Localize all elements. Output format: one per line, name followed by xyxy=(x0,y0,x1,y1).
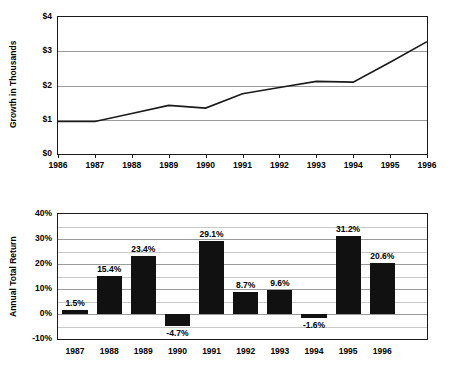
x-tick-label: 1994 xyxy=(333,160,373,170)
x-tick-mark xyxy=(243,154,244,158)
y-tick-label: $3 xyxy=(4,46,52,55)
y-tick-label: 0% xyxy=(0,309,52,318)
gridline xyxy=(58,327,427,328)
table-row xyxy=(336,236,361,314)
y-tick-label: $4 xyxy=(4,12,52,21)
x-tick-mark xyxy=(353,154,354,158)
table-row xyxy=(301,314,326,318)
bar-data-label: -1.6% xyxy=(284,320,344,330)
bar-data-label: 15.4% xyxy=(79,264,139,274)
table-row xyxy=(165,314,190,326)
table-row xyxy=(267,290,292,314)
x-tick-label: 1996 xyxy=(407,160,447,170)
y-tick-label: 20% xyxy=(0,259,52,268)
bar-data-label: 9.6% xyxy=(250,278,310,288)
x-tick-mark xyxy=(316,154,317,158)
x-tick-label: 1989 xyxy=(149,160,189,170)
gridline xyxy=(58,239,427,240)
table-row xyxy=(199,241,224,314)
bar-data-label: 31.2% xyxy=(318,224,378,234)
y-tick-label: 40% xyxy=(0,209,52,218)
x-tick-label: 1992 xyxy=(259,160,299,170)
x-tick-mark xyxy=(169,154,170,158)
x-tick-label: 1990 xyxy=(186,160,226,170)
y-tick-label: $1 xyxy=(4,115,52,124)
y-tick-label: 10% xyxy=(0,284,52,293)
x-tick-mark xyxy=(58,154,59,158)
bar-data-label: 23.4% xyxy=(113,244,173,254)
bar-data-label: 29.1% xyxy=(182,229,242,239)
table-row xyxy=(370,263,395,315)
x-tick-label: 1991 xyxy=(223,160,263,170)
table-row xyxy=(62,310,87,314)
growth-line-chart: Growth in Thousands $4$3$2$1$0 198619871… xyxy=(0,0,456,190)
x-tick-mark xyxy=(279,154,280,158)
bar-data-label: 20.6% xyxy=(352,251,412,261)
x-tick-label: 1996 xyxy=(360,346,404,356)
x-tick-mark xyxy=(132,154,133,158)
x-tick-label: 1987 xyxy=(75,160,115,170)
x-tick-label: 1993 xyxy=(296,160,336,170)
line-chart-series-path xyxy=(58,17,427,154)
x-tick-mark xyxy=(95,154,96,158)
x-tick-mark xyxy=(206,154,207,158)
x-tick-label: 1995 xyxy=(370,160,410,170)
bar-data-label: 1.5% xyxy=(45,298,105,308)
y-tick-label: -10% xyxy=(0,334,52,343)
bar-data-label: -4.7% xyxy=(147,328,207,338)
annual-return-bar-chart: Annual Total Return 40%30%20%10%0%-10% 1… xyxy=(0,195,456,381)
x-tick-label: 1988 xyxy=(112,160,152,170)
x-tick-mark xyxy=(390,154,391,158)
line-chart-plot-area xyxy=(57,16,428,155)
x-tick-mark xyxy=(427,154,428,158)
chart-page: Growth in Thousands $4$3$2$1$0 198619871… xyxy=(0,0,456,381)
gridline xyxy=(58,314,427,315)
x-tick-label: 1986 xyxy=(38,160,78,170)
y-tick-label: $0 xyxy=(4,149,52,158)
table-row xyxy=(233,292,258,314)
y-tick-label: $2 xyxy=(4,81,52,90)
y-tick-label: 30% xyxy=(0,234,52,243)
